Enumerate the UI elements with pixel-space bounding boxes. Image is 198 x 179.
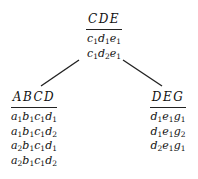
node-root: CDE c1d1e1c1d2e1 (80, 8, 128, 61)
node-header: ABCD (11, 91, 58, 108)
node-rows: d1e1g1d1e1g2d2e1g1 (145, 110, 191, 154)
tuple-row: d1e1g1 (145, 110, 191, 125)
node-header: CDE (86, 13, 122, 30)
node-left: ABCD a1b1c1d1a1b1c1d2a2b1c1d1a2b1c1d2 (6, 86, 62, 168)
tuple-row: a2b1c1d2 (6, 154, 62, 169)
node-rows: c1d1e1c1d2e1 (80, 32, 128, 61)
tuple-row: a2b1c1d1 (6, 139, 62, 154)
edge-root-left (41, 60, 79, 86)
tuple-row: d2e1g1 (145, 139, 191, 154)
node-right: DEG d1e1g1d1e1g2d2e1g1 (145, 86, 191, 154)
tuple-row: a1b1c1d1 (6, 110, 62, 125)
node-header: DEG (150, 91, 186, 108)
tuple-row: c1d2e1 (80, 47, 128, 62)
tuple-row: c1d1e1 (80, 32, 128, 47)
tuple-row: d1e1g2 (145, 125, 191, 140)
tuple-row: a1b1c1d2 (6, 125, 62, 140)
edge-root-right (123, 60, 162, 86)
node-rows: a1b1c1d1a1b1c1d2a2b1c1d1a2b1c1d2 (6, 110, 62, 168)
